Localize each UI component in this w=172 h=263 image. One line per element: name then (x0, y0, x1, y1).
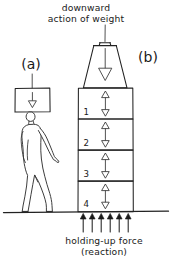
stack-block-1: 1 (78, 88, 133, 119)
stack-block-2: 2 (78, 119, 133, 150)
diagram-canvas: downward action of weight (a) (b) (0, 0, 172, 263)
block-number-3: 3 (84, 169, 89, 179)
block-stack: 1 2 3 (78, 88, 133, 212)
block-number-2: 2 (84, 138, 89, 148)
reaction-arrow-2 (89, 213, 95, 232)
block-3-internal-arrows (102, 153, 110, 178)
block-1-internal-arrows (102, 91, 110, 116)
reaction-arrow-4 (107, 213, 113, 232)
reaction-arrow-6 (125, 213, 131, 232)
panel-label-a: (a) (21, 56, 41, 72)
head-load-arrow-down (28, 93, 36, 108)
bottom-caption-line1: holding-up force (65, 235, 143, 246)
head-load-box (15, 88, 50, 112)
block-number-1: 1 (84, 107, 89, 117)
physics-diagram-figure: downward action of weight (a) (b) (0, 0, 172, 263)
panel-label-b: (b) (138, 49, 158, 65)
block-2-internal-arrows (102, 122, 110, 147)
reaction-arrow-1 (80, 213, 86, 232)
top-caption-line1: downward (62, 2, 111, 13)
walking-person-figure (21, 112, 59, 211)
block-number-4: 4 (84, 199, 89, 209)
block-4-internal-arrows (102, 184, 110, 209)
stack-block-3: 3 (78, 150, 133, 181)
reaction-arrow-5 (116, 213, 122, 232)
weight-force-arrow-down (99, 49, 112, 81)
stack-block-4: 4 (78, 181, 133, 212)
reaction-arrow-3 (98, 213, 104, 232)
top-caption-line2: action of weight (48, 13, 125, 24)
reaction-arrow-group (80, 213, 131, 232)
bottom-caption-line2: (reaction) (81, 246, 127, 257)
